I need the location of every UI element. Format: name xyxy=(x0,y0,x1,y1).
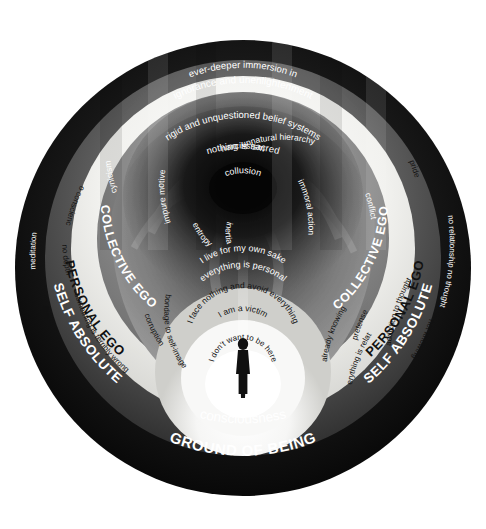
self-absolute-term-meditation: meditation xyxy=(28,232,38,270)
vortex-core-inertia: inertia xyxy=(223,221,235,245)
consciousness-sphere-svg: GROUND OF BEING consciousness SELF ABSOL… xyxy=(0,0,486,529)
diagram-canvas: GROUND OF BEING consciousness SELF ABSOL… xyxy=(0,0,486,529)
